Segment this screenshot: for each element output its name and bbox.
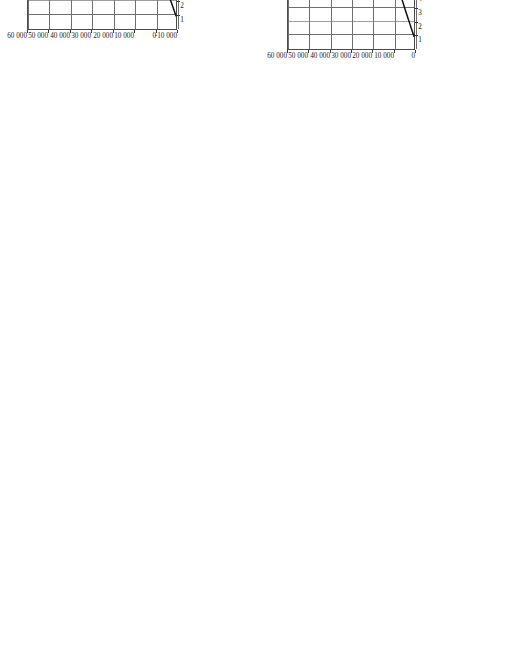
y-axis-tick	[177, 30, 178, 33]
x-axis-tick-label: 4	[418, 0, 422, 3]
x-axis-tick-label: 3	[418, 9, 422, 17]
data-curve	[120, 0, 176, 16]
x-axis-tick-label: 1	[180, 16, 184, 24]
y-axis-tick-label: 30 000	[331, 52, 351, 60]
chart-panel-c: 1234567891011121314151617181920212223242…	[0, 0, 258, 670]
x-axis-tick-label: 2	[180, 2, 184, 10]
y-axis-tick-label: 60 000	[267, 52, 287, 60]
y-axis-tick-label: 20 000	[353, 52, 373, 60]
y-axis-tick-label: 30 000	[72, 32, 92, 40]
data-curve	[359, 0, 414, 36]
y-axis-tick-label: 10 000	[114, 32, 134, 40]
y-axis-tick-label: -10 000	[155, 32, 177, 40]
y-axis-tick-label: 10 000	[374, 52, 394, 60]
x-axis-tick-label: 1	[418, 36, 422, 44]
y-axis-tick	[308, 50, 309, 53]
y-axis-tick	[372, 50, 373, 53]
y-axis-tick-label: 50 000	[29, 32, 49, 40]
y-axis-tick	[91, 30, 92, 33]
y-axis-tick-label: 20 000	[93, 32, 113, 40]
curve-layer	[287, 0, 415, 50]
y-axis-tick-label: 0	[152, 32, 156, 40]
y-axis-tick-label: 0	[411, 52, 415, 60]
y-axis-tick-label: 50 000	[289, 52, 309, 60]
y-axis-tick-label: 40 000	[310, 52, 330, 60]
x-axis-tick-label: 2	[418, 23, 422, 31]
curve-layer	[27, 0, 177, 30]
chart-panel-d: 1234567891011121314151617181920212223242…	[258, 0, 517, 670]
figure-page: 1234567891011121314151617181920212223242…	[0, 0, 517, 670]
y-axis-tick-label: 40 000	[50, 32, 70, 40]
y-axis-tick	[134, 30, 135, 33]
y-axis-tick-label: 60 000	[7, 32, 27, 40]
y-axis-tick	[48, 30, 49, 33]
